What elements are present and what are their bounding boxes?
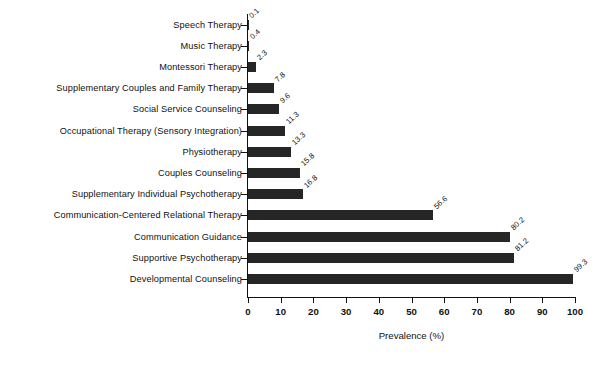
category-label: Supplementary Couples and Family Therapy [0,83,242,93]
x-axis-tick [510,298,511,303]
bar-value-label: 7.8 [273,70,286,83]
x-axis-title: Prevalence (%) [248,330,575,341]
bar-value-label: 15.8 [299,152,316,168]
x-axis-tick [575,298,576,303]
x-axis-tick [281,298,282,303]
y-axis-tick [241,173,247,174]
plot-area: 0.10.42.37.89.611.313.315.816.856.680.28… [248,14,575,297]
y-axis-line [247,14,248,298]
bar-value-label: 80.2 [510,216,527,232]
category-axis-labels: Speech TherapyMusic TherapyMontessori Th… [0,0,242,365]
x-axis-tick [379,298,380,303]
category-label: Supportive Psychotherapy [0,253,242,263]
bar-value-label: 11.3 [285,110,301,126]
category-label: Communication-Centered Relational Therap… [0,210,242,220]
bar [248,253,514,263]
category-label: Social Service Counseling [0,104,242,114]
bar [248,232,510,242]
category-label: Couples Counseling [0,168,242,178]
category-label: Speech Therapy [0,20,242,30]
y-axis-tick [241,109,247,110]
bar [248,210,433,220]
category-label: Music Therapy [0,41,242,51]
x-axis-tick [313,298,314,303]
category-label: Montessori Therapy [0,62,242,72]
x-axis-tick [542,298,543,303]
x-axis-tick [477,298,478,303]
bar-value-label: 56.6 [433,195,450,211]
y-axis-tick [241,237,247,238]
bar [248,147,291,157]
bar-value-label: 99.3 [572,258,589,274]
y-axis-tick [241,88,247,89]
bar-value-label: 0.4 [249,28,262,41]
category-label: Occupational Therapy (Sensory Integratio… [0,126,242,136]
x-axis-tick [412,298,413,303]
bar [248,104,279,114]
y-axis-tick [241,279,247,280]
bar-value-label: 81.2 [513,237,530,253]
bar-value-label: 0.1 [248,7,261,20]
bar [248,168,300,178]
bar-value-label: 2.3 [255,49,268,62]
x-axis-tick-label: 100 [555,306,595,317]
y-axis-tick [241,152,247,153]
category-label: Physiotherapy [0,147,242,157]
bar [248,83,274,93]
x-axis-tick [248,298,249,303]
y-axis-tick [241,131,247,132]
bar-value-label: 16.8 [303,173,320,189]
bar [248,189,303,199]
category-label: Supplementary Individual Psychotherapy [0,189,242,199]
bar [248,62,256,72]
y-axis-tick [241,194,247,195]
category-label: Communication Guidance [0,232,242,242]
y-axis-tick [241,25,247,26]
bar-chart: Speech TherapyMusic TherapyMontessori Th… [0,0,614,365]
y-axis-tick [241,215,247,216]
bar [248,126,285,136]
x-axis-tick [444,298,445,303]
y-axis-tick [241,67,247,68]
bar-value-label: 9.6 [279,92,292,105]
x-axis-tick [346,298,347,303]
y-axis-tick [241,258,247,259]
bar [248,274,573,284]
y-axis-tick [241,46,247,47]
category-label: Developmental Counseling [0,274,242,284]
bar-value-label: 13.3 [291,131,308,147]
